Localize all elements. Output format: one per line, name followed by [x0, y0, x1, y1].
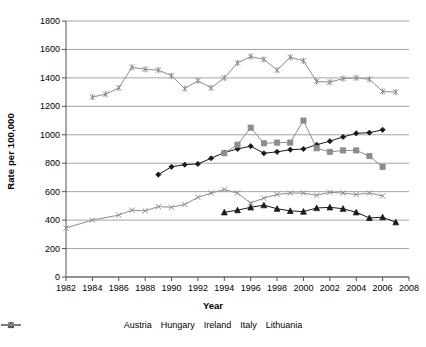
legend-item-austria: Austria	[124, 320, 152, 330]
legend-label: Ireland	[204, 320, 232, 330]
legend-label: Italy	[240, 320, 257, 330]
legend-item-italy: Italy	[240, 320, 257, 330]
series-ireland	[221, 202, 398, 225]
legend-label: Austria	[124, 320, 152, 330]
series-lithuania	[90, 53, 399, 100]
legend-item-lithuania: Lithuania	[266, 320, 303, 330]
legend-item-ireland: Ireland	[204, 320, 232, 330]
legend-label: Lithuania	[266, 320, 303, 330]
plot-area	[0, 0, 426, 347]
asterisk-marker-icon	[0, 320, 22, 330]
x-axis-title: Year	[0, 300, 426, 311]
chart-legend: AustriaHungaryIrelandItalyLithuania	[0, 320, 426, 330]
line-chart: Rate per 100,000 02004006008001000120014…	[0, 0, 426, 347]
legend-label: Hungary	[161, 320, 195, 330]
series-hungary	[222, 118, 386, 169]
legend-item-hungary: Hungary	[161, 320, 195, 330]
